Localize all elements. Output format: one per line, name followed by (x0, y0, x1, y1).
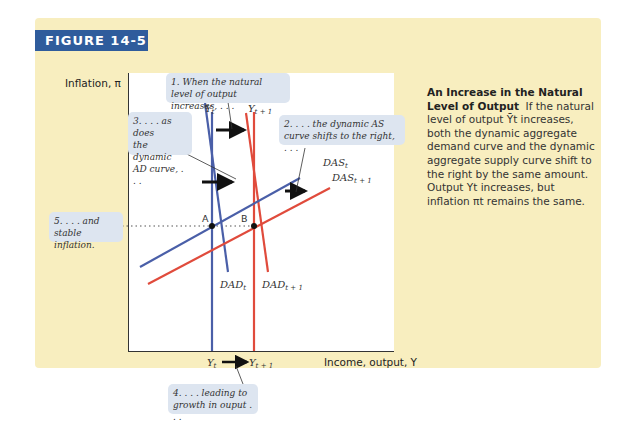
x-tick-yt1: Yt + 1 (249, 357, 273, 370)
callout-3-box: 3. . . . as does the dynamic AD curve, .… (128, 112, 192, 155)
point-b-marker (251, 223, 257, 229)
callout-5-line1: 5. . . . and (54, 215, 118, 227)
dad-t-label: DADt (219, 279, 246, 292)
das-t-curve (140, 178, 300, 267)
callout-3-line2: the dynamic (133, 139, 187, 163)
callout-5-line2: stable inflation. (54, 227, 118, 251)
dad-t1-curve (246, 113, 268, 272)
figure-caption: An Increase in the Natural Level of Outp… (427, 86, 595, 208)
point-a-label: A (202, 213, 209, 224)
callout-3-line3: AD curve, . . . (133, 163, 187, 187)
point-b-label: B (241, 213, 248, 224)
callout-1-line1: 1. When the natural (171, 76, 285, 88)
callout-4-line2: growth in ouput . . . (173, 399, 253, 423)
point-a-marker (209, 223, 215, 229)
x-tick-yt: Yt (207, 357, 217, 370)
callout-3-line1: 3. . . . as does (133, 115, 187, 139)
dad-t1-label: DADt + 1 (261, 279, 303, 292)
callout-1-line2: level of output increases, . . . (171, 88, 285, 112)
callout-4-line1: 4. . . . leading to (173, 387, 253, 399)
callout-2-leader (296, 148, 305, 192)
das-t-label: DASt (322, 157, 348, 170)
callout-2: 2. . . . the dynamic AS curve shifts to … (279, 115, 405, 145)
callout-2-line2: curve shifts to the right, . . . (284, 130, 400, 154)
callout-1: 1. When the natural level of output incr… (166, 73, 290, 103)
das-t1-curve (148, 188, 330, 284)
callout-5: 5. . . . and stable inflation. (49, 212, 123, 242)
callout-4: 4. . . . leading to growth in ouput . . … (168, 384, 258, 414)
caption-body: If the natural level of output Ȳt increa… (427, 100, 595, 207)
das-t1-label: DASt + 1 (331, 172, 372, 185)
callout-4-leader (236, 366, 243, 384)
callout-2-line1: 2. . . . the dynamic AS (284, 118, 400, 130)
